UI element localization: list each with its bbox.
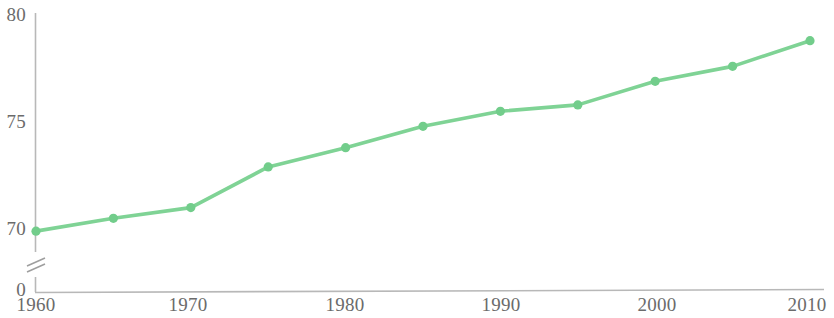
x-tick-label-2010: 2010 [780,294,834,316]
y-tick-label-80: 80 [0,4,26,26]
data-line-series [36,41,810,231]
data-point [496,107,505,116]
y-tick-label-75: 75 [0,111,26,133]
data-point [418,122,427,131]
x-tick-label-1980: 1980 [314,294,376,316]
data-point [109,214,118,223]
y-tick-label-70: 70 [0,218,26,240]
x-tick-label-1990: 1990 [470,294,532,316]
data-point [728,62,737,71]
data-point-markers [31,36,814,236]
data-point [341,143,350,152]
data-point [264,162,273,171]
axis-break-icon [27,258,45,272]
x-tick-label-1970: 1970 [157,294,219,316]
line-chart: 80 75 70 0 1960 1970 1980 1990 2000 2010 [0,0,834,318]
x-axis-line [35,290,824,293]
x-tick-label-2000: 2000 [626,294,688,316]
data-point [31,227,40,236]
data-point [573,100,582,109]
data-point [805,36,814,45]
chart-canvas [0,0,834,318]
x-tick-label-1960: 1960 [5,294,67,316]
data-point [186,203,195,212]
data-point [651,77,660,86]
